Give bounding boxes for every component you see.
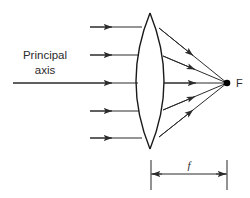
principal-axis-label-line2: axis bbox=[35, 64, 56, 76]
focal-length-label: f bbox=[187, 159, 192, 171]
refracted-ray-5-arrow bbox=[159, 110, 193, 137]
refracted-ray-1-arrow bbox=[159, 28, 193, 56]
focal-point-label: F bbox=[236, 77, 243, 89]
lens-ray-diagram-svg: Principal axis F f bbox=[0, 0, 250, 198]
focal-point-dot bbox=[224, 80, 231, 87]
refracted-ray-2-arrow bbox=[163, 56, 195, 70]
lens-left-surface bbox=[136, 13, 150, 149]
incoming-rays-group bbox=[13, 27, 142, 138]
lens-right-surface bbox=[150, 13, 164, 149]
principal-axis-label-line1: Principal bbox=[23, 49, 67, 61]
refracted-ray-4-arrow bbox=[163, 97, 195, 111]
converging-lens bbox=[136, 13, 164, 149]
refracted-rays-group bbox=[159, 28, 227, 137]
optics-diagram: Principal axis F f bbox=[0, 0, 250, 198]
